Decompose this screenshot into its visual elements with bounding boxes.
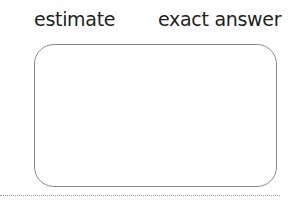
exact-answer-label: exact answer xyxy=(158,8,281,30)
estimate-label: estimate xyxy=(34,8,115,30)
answer-box[interactable] xyxy=(34,44,277,187)
divider-line xyxy=(0,195,280,196)
